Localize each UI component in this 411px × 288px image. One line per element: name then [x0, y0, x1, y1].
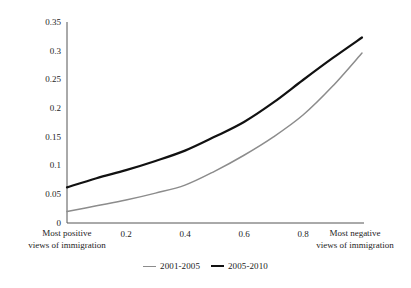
series-line-2001-2005 — [67, 53, 362, 212]
x-axis-start-label-line1: Most positive — [12, 228, 122, 240]
chart-legend: 2001-2005 2005-2010 — [0, 261, 411, 271]
y-tick-label-015: 0.15 — [31, 132, 61, 142]
x-axis-start-label-line2: views of immigration — [12, 240, 122, 252]
y-tick-label-035: 0.35 — [31, 17, 61, 27]
legend-swatch-icon-2005-2010 — [211, 265, 224, 267]
legend-swatch-icon-2001-2005 — [143, 266, 156, 267]
x-axis-end-label-line1: Most negative — [300, 228, 410, 240]
legend-entry-2005-2010: 2005-2010 — [211, 261, 268, 271]
y-tick-label-01: 0.1 — [31, 160, 61, 170]
x-axis-start-label: Most positive views of immigration — [12, 228, 122, 251]
axes-group — [67, 22, 364, 223]
y-tick-label-03: 0.3 — [31, 46, 61, 56]
x-axis-end-label: Most negative views of immigration — [300, 228, 410, 251]
series-line-2005-2010 — [67, 38, 362, 188]
y-tick-label-025: 0.25 — [31, 74, 61, 84]
y-tick-label-02: 0.2 — [31, 103, 61, 113]
y-tick-label-0: 0 — [31, 218, 61, 228]
x-tick-label-04: 0.4 — [165, 229, 205, 239]
legend-label-2005-2010: 2005-2010 — [228, 261, 268, 271]
x-axis-end-label-line2: views of immigration — [300, 240, 410, 252]
x-tick-label-06: 0.6 — [224, 229, 264, 239]
legend-entry-2001-2005: 2001-2005 — [143, 261, 200, 271]
y-tick-label-005: 0.05 — [31, 189, 61, 199]
chart-container: 0 0.05 0.1 0.15 0.2 0.25 0.3 0.35 0.2 0.… — [0, 0, 411, 288]
legend-label-2001-2005: 2001-2005 — [160, 261, 200, 271]
series-group — [67, 38, 362, 212]
